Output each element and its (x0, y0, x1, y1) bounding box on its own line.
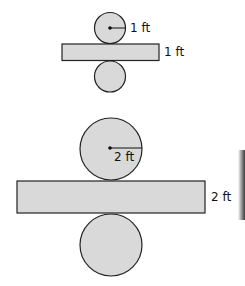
large-bottom-circle (80, 214, 142, 276)
small-radius-label: 1 ft (130, 21, 150, 35)
large-lateral-rectangle (17, 181, 205, 213)
large-radius-label: 2 ft (114, 150, 134, 164)
large-cylinder-net: 2 ft 2 ft (17, 118, 231, 276)
cylinder-nets-diagram: 1 ft 1 ft 2 ft 2 ft (0, 0, 245, 286)
small-bottom-circle (95, 61, 126, 92)
small-lateral-rectangle (62, 44, 159, 61)
page-edge-shadow (238, 150, 245, 220)
small-cylinder-net: 1 ft 1 ft (62, 13, 184, 93)
small-height-label: 1 ft (164, 45, 184, 59)
large-height-label: 2 ft (211, 190, 231, 204)
